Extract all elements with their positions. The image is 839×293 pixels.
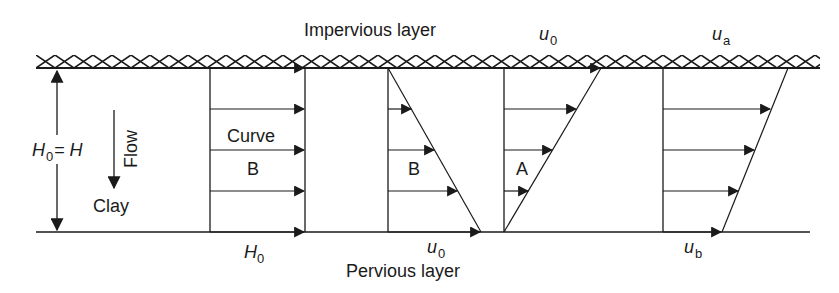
panel-4-bottom-label-main: u [684, 237, 694, 257]
thickness-label-main: H [32, 140, 46, 160]
curve-b-label-2: B [408, 159, 420, 179]
thickness-dimension: H 0 = H [32, 71, 84, 230]
thickness-label-sub: 0 [46, 149, 53, 164]
impervious-layer [36, 55, 820, 68]
panel-1-uniform-profile: Curve B H 0 [210, 68, 305, 266]
panel-4-top-label-sub: a [723, 33, 731, 48]
panel-3-top-label-main: u [539, 24, 549, 44]
curve-b-label: B [247, 159, 259, 179]
panel-2-bottom-label-sub: 0 [438, 246, 445, 261]
impervious-layer-label: Impervious layer [304, 20, 436, 40]
flow-label: Flow [121, 129, 141, 168]
panel-4-bottom-label-sub: b [695, 246, 702, 261]
thickness-label-eq: = H [54, 140, 84, 160]
panel-2-bottom-label-main: u [427, 237, 437, 257]
pervious-layer-label: Pervious layer [346, 261, 460, 281]
panel-2-triangular-profile: B u 0 [388, 68, 481, 261]
panel-1-bottom-label-main: H [244, 242, 258, 262]
panel-4-top-label-main: u [712, 24, 722, 44]
clay-label: Clay [93, 196, 129, 216]
panel-1-bottom-label-sub: 0 [257, 251, 264, 266]
curve-label: Curve [227, 126, 275, 146]
curve-a-label: A [516, 159, 528, 179]
flow-indicator: Flow [114, 110, 141, 188]
consolidation-diagram: Impervious layer Pervious layer H 0 = H … [0, 0, 839, 293]
panel-3-top-label-sub: 0 [550, 33, 557, 48]
